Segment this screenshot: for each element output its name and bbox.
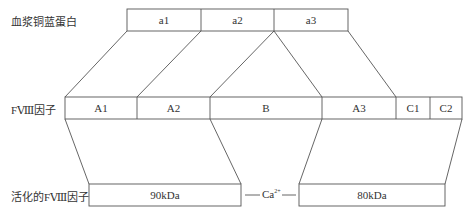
calcium-ion-link: Ca2+ xyxy=(262,188,281,200)
calcium-symbol: Ca xyxy=(262,188,274,200)
domain-A1: A1 xyxy=(65,97,137,119)
ceruloplasmin-label: 血浆铜蓝蛋白 xyxy=(11,13,77,29)
domain-C1: C1 xyxy=(396,97,430,119)
segment-a2: a2 xyxy=(201,9,274,31)
domain-A3: A3 xyxy=(322,97,396,119)
domain-C2: C2 xyxy=(430,97,462,119)
calcium-charge: 2+ xyxy=(274,188,280,194)
domain-B: B xyxy=(210,97,322,119)
light-chain-80kda: 80kDa xyxy=(299,184,445,206)
segment-a3: a3 xyxy=(274,9,348,31)
activated-factor-viii-label: 活化的FⅧ因子 xyxy=(11,188,89,204)
domain-A2: A2 xyxy=(137,97,210,119)
factor-viii-label: FⅧ因子 xyxy=(11,101,56,117)
segment-a1: a1 xyxy=(127,9,201,31)
heavy-chain-90kda: 90kDa xyxy=(89,184,241,206)
